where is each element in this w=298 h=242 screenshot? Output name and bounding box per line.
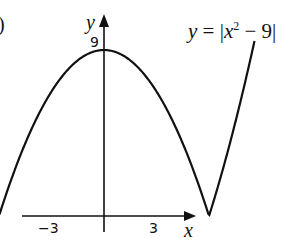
function-equation: y = |x2 − 9| [188,20,276,42]
function-curve [0,41,255,215]
equation-tail: − 9| [239,19,276,43]
tick-label-3: 3 [149,221,158,235]
tick-label-neg3: −3 [38,221,59,235]
equation-equals: = | [197,19,224,43]
part-marker: ) [0,14,5,34]
equation-x: x [224,19,233,43]
tick-label-9: 9 [90,35,99,49]
equation-y: y [188,19,197,43]
x-axis-label: x [184,220,193,240]
y-axis-label: y [86,12,95,32]
y-axis-arrow-icon [99,14,109,27]
